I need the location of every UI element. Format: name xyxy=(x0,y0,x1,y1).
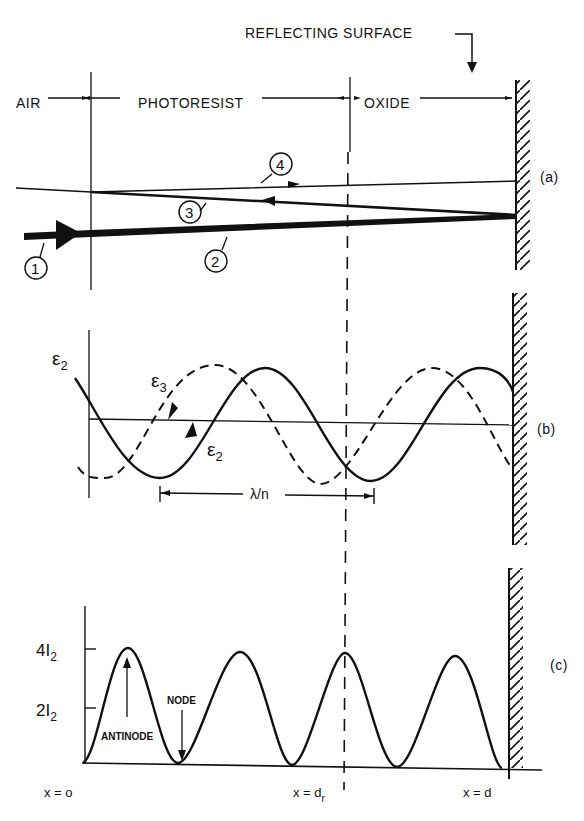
panel-a-label: (a) xyxy=(540,169,559,185)
e2-arrow-label: ε2 xyxy=(207,439,223,464)
panel-b-label: (b) xyxy=(537,421,556,437)
ray-2 xyxy=(24,214,516,240)
ray-callouts: 1 2 3 4 xyxy=(25,153,292,279)
ray-4-label: 4 xyxy=(276,156,284,173)
panel-a: 1 2 3 4 (a) xyxy=(16,80,559,279)
wavelength-label: λ/n xyxy=(250,486,269,502)
region-dimension-arrows xyxy=(48,96,512,100)
ray-3-label: 3 xyxy=(185,204,193,221)
mirror-hatch-b xyxy=(513,293,527,545)
mirror-hatch-c xyxy=(509,568,523,768)
region-air-label: AIR xyxy=(16,95,41,111)
region-oxide-label: OXIDE xyxy=(364,95,410,111)
panel-c-label: (c) xyxy=(550,657,568,673)
standing-wave-diagram: REFLECTING SURFACE AIR PHOTORESIST OXIDE xyxy=(0,0,584,821)
ray-3 xyxy=(91,192,516,215)
x-origin-label: x = o xyxy=(44,785,73,800)
y-tick-2i2-label: 2I2 xyxy=(36,701,57,724)
ray-1-arrow-icon xyxy=(56,220,81,250)
panel-c: 4I2 2I2 ANTINODE NODE (c) x = o x = dr x… xyxy=(36,568,568,804)
x-dr-label: x = dr xyxy=(293,785,326,804)
e2-direction-arrow-icon xyxy=(185,422,197,438)
e3-direction-arrow-icon xyxy=(168,402,178,420)
antinode-label: ANTINODE xyxy=(101,731,154,742)
reflecting-surface-label: REFLECTING SURFACE xyxy=(245,25,413,41)
panel-b: ε2 ε3 ε2 λ/n (b) xyxy=(52,293,556,545)
reflecting-surface-arrow-icon xyxy=(455,34,477,73)
ray-2-label: 2 xyxy=(211,253,219,270)
node-label: NODE xyxy=(167,695,196,706)
intensity-curve xyxy=(83,648,502,768)
region-photoresist-label: PHOTORESIST xyxy=(138,95,244,111)
antinode-arrow-icon xyxy=(123,657,131,668)
e2-left-label: ε2 xyxy=(52,348,68,373)
y-tick-4i2-label: 4I2 xyxy=(36,641,57,664)
mirror-hatch-a xyxy=(516,80,530,270)
dr-dashed-line xyxy=(344,152,348,790)
intensity-x-axis xyxy=(82,763,542,770)
ray-1-label: 1 xyxy=(31,260,39,277)
e3-label: ε3 xyxy=(151,370,167,395)
x-d-label: x = d xyxy=(463,785,492,800)
